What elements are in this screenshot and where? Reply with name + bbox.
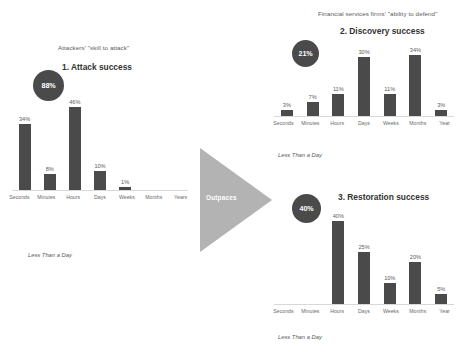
bar bbox=[409, 262, 421, 304]
bar bbox=[358, 252, 370, 304]
bar-value: 10% bbox=[384, 276, 395, 282]
bar-value: 3% bbox=[283, 103, 291, 109]
x-tick: Days bbox=[351, 308, 378, 314]
bar bbox=[358, 57, 370, 116]
x-tick: Hours bbox=[324, 308, 351, 314]
bar-value: 40% bbox=[333, 214, 344, 220]
arrow-label: Outpaces bbox=[206, 194, 237, 201]
x-tick: Minutes bbox=[33, 194, 60, 200]
x-tick: Weeks bbox=[377, 308, 404, 314]
chart-panel-restoration-success: 3. Restoration success 40% 40% 25% 10% 2… bbox=[268, 186, 458, 351]
bar-value: 11% bbox=[384, 87, 395, 93]
chart-panel-attack-success: Attackers' "skill to attack" 1. Attack s… bbox=[0, 0, 200, 280]
x-tick: Weeks bbox=[377, 120, 404, 126]
bar-value: 3% bbox=[437, 103, 445, 109]
bar-value: 30% bbox=[358, 50, 369, 56]
bar-column: 7% bbox=[300, 48, 326, 116]
x-tick: Weeks bbox=[113, 194, 140, 200]
restoration-success-axis bbox=[274, 304, 454, 305]
attack-success-subtitle: Attackers' "skill to attack" bbox=[58, 44, 129, 51]
bar bbox=[332, 221, 344, 304]
bar bbox=[44, 174, 56, 190]
bar-column: 10% bbox=[87, 100, 112, 190]
bar-column: 11% bbox=[377, 48, 403, 116]
discovery-success-axis bbox=[274, 116, 454, 117]
bar-column: 46% bbox=[62, 100, 87, 190]
discovery-success-title: 2. Discovery success bbox=[340, 26, 425, 36]
x-tick: Seconds bbox=[270, 308, 297, 314]
bar-value: 1% bbox=[121, 180, 129, 186]
bar-column bbox=[274, 212, 300, 304]
bar-value: 7% bbox=[309, 95, 317, 101]
x-tick: Hours bbox=[324, 120, 351, 126]
attack-success-axis bbox=[12, 190, 188, 191]
bar-column: 25% bbox=[351, 212, 377, 304]
bar bbox=[307, 102, 319, 116]
x-tick: Year bbox=[431, 308, 458, 314]
attack-success-plot: 34% 8% 46% 10% 1% bbox=[12, 100, 188, 190]
bar-column: 3% bbox=[428, 48, 454, 116]
bar bbox=[409, 55, 421, 116]
bar-column: 30% bbox=[351, 48, 377, 116]
x-tick: Months bbox=[404, 120, 431, 126]
bar bbox=[69, 107, 81, 190]
x-tick: Months bbox=[404, 308, 431, 314]
bar-column: 5% bbox=[428, 212, 454, 304]
attack-success-xticks: Seconds Minutes Hours Days Weeks Months … bbox=[6, 194, 194, 200]
discovery-success-footnote: Less Than a Day bbox=[278, 152, 322, 158]
bar-column: 40% bbox=[325, 212, 351, 304]
restoration-success-title: 3. Restoration success bbox=[338, 192, 429, 202]
x-tick: Minutes bbox=[297, 120, 324, 126]
bar-value: 20% bbox=[410, 255, 421, 261]
bar-column bbox=[163, 100, 188, 190]
bar bbox=[332, 94, 344, 116]
x-tick: Years bbox=[167, 194, 194, 200]
bar bbox=[384, 283, 396, 304]
attack-success-title: 1. Attack success bbox=[62, 62, 132, 72]
bar bbox=[384, 94, 396, 116]
outpaces-arrow: Outpaces bbox=[200, 148, 272, 252]
bar-value: 46% bbox=[69, 100, 80, 106]
x-tick: Seconds bbox=[6, 194, 33, 200]
x-tick: Days bbox=[351, 120, 378, 126]
bar-value: 25% bbox=[358, 245, 369, 251]
bar-value: 8% bbox=[46, 167, 54, 173]
bar-value: 34% bbox=[410, 48, 421, 54]
bar-value: 11% bbox=[333, 87, 344, 93]
bar-column: 11% bbox=[325, 48, 351, 116]
bar-column bbox=[300, 212, 326, 304]
discovery-success-subtitle: Financial services firms' "ability to de… bbox=[318, 10, 437, 17]
bar-column: 10% bbox=[377, 212, 403, 304]
bar-column: 34% bbox=[403, 48, 429, 116]
x-tick: Year bbox=[431, 120, 458, 126]
bar-column: 8% bbox=[37, 100, 62, 190]
bar-column: 3% bbox=[274, 48, 300, 116]
bar bbox=[94, 171, 106, 190]
bar-column bbox=[138, 100, 163, 190]
x-tick: Days bbox=[87, 194, 114, 200]
attack-success-footnote: Less Than a Day bbox=[28, 252, 72, 258]
x-tick: Minutes bbox=[297, 308, 324, 314]
restoration-success-footnote: Less Than a Day bbox=[278, 334, 322, 340]
bar-column: 20% bbox=[403, 212, 429, 304]
bar-value: 10% bbox=[94, 164, 105, 170]
restoration-success-plot: 40% 25% 10% 20% 5% bbox=[274, 212, 454, 304]
discovery-success-xticks: Seconds Minutes Hours Days Weeks Months … bbox=[270, 120, 458, 126]
x-tick: Seconds bbox=[270, 120, 297, 126]
bar-value: 5% bbox=[437, 287, 445, 293]
bar-column: 1% bbox=[113, 100, 138, 190]
discovery-success-plot: 3% 7% 11% 30% 11% 34% 3% bbox=[274, 48, 454, 116]
x-tick: Hours bbox=[60, 194, 87, 200]
x-tick: Months bbox=[140, 194, 167, 200]
bar bbox=[19, 124, 31, 190]
bar-column: 34% bbox=[12, 100, 37, 190]
chart-panel-discovery-success: Financial services firms' "ability to de… bbox=[268, 0, 458, 175]
bar bbox=[435, 294, 447, 304]
attack-success-badge: 88% bbox=[33, 70, 64, 101]
restoration-success-xticks: Seconds Minutes Hours Days Weeks Months … bbox=[270, 308, 458, 314]
bar-value: 34% bbox=[19, 117, 30, 123]
